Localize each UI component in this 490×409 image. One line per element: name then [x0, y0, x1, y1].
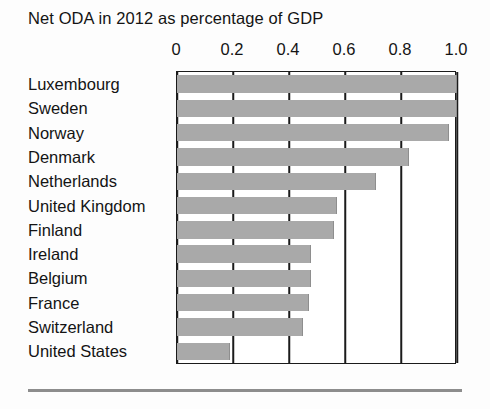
- bar-row: [177, 145, 455, 169]
- bar-row: [177, 242, 455, 266]
- bar-row: [177, 291, 455, 315]
- page-title: Net ODA in 2012 as percentage of GDP: [28, 9, 323, 28]
- x-axis-tick-labels: 00.20.40.60.81.0: [176, 40, 456, 66]
- category-label: Belgium: [28, 266, 88, 290]
- chart-figure: Net ODA in 2012 as percentage of GDP 00.…: [0, 0, 490, 409]
- category-label: Switzerland: [28, 315, 113, 339]
- x-tick-label-0: 0: [171, 40, 180, 59]
- category-label: Netherlands: [28, 169, 117, 193]
- bar: [177, 197, 337, 214]
- bar: [177, 75, 457, 92]
- bar-row: [177, 121, 455, 145]
- bar-row: [177, 218, 455, 242]
- bar-row: [177, 266, 455, 290]
- bar: [177, 148, 409, 165]
- category-label: France: [28, 291, 79, 315]
- category-label: Ireland: [28, 242, 78, 266]
- bar: [177, 100, 457, 117]
- bar: [177, 245, 311, 262]
- bar-row: [177, 315, 455, 339]
- bar: [177, 318, 303, 335]
- bar: [177, 221, 334, 238]
- category-label: Denmark: [28, 145, 95, 169]
- category-label: Sweden: [28, 96, 88, 120]
- bar: [177, 270, 311, 287]
- x-tick-label-2: 0.4: [277, 40, 300, 59]
- bar-row: [177, 194, 455, 218]
- category-label: Norway: [28, 121, 84, 145]
- category-label: Luxembourg: [28, 72, 120, 96]
- bar: [177, 343, 230, 360]
- bar: [177, 173, 376, 190]
- category-label: United States: [28, 339, 127, 363]
- plot-area: [176, 71, 456, 364]
- bar-series: [177, 72, 455, 363]
- x-tick-label-5: 1.0: [445, 40, 468, 59]
- x-tick-label-1: 0.2: [221, 40, 244, 59]
- bar: [177, 294, 309, 311]
- x-tick-label-4: 0.8: [389, 40, 412, 59]
- bar: [177, 124, 449, 141]
- bar-row: [177, 72, 455, 96]
- category-label: United Kingdom: [28, 194, 145, 218]
- footer-divider: [28, 389, 462, 392]
- bar-row: [177, 339, 455, 363]
- bar-row: [177, 96, 455, 120]
- x-tick-label-3: 0.6: [333, 40, 356, 59]
- bar-row: [177, 169, 455, 193]
- category-label: Finland: [28, 218, 82, 242]
- y-axis-category-labels: LuxembourgSwedenNorwayDenmarkNetherlands…: [28, 72, 174, 364]
